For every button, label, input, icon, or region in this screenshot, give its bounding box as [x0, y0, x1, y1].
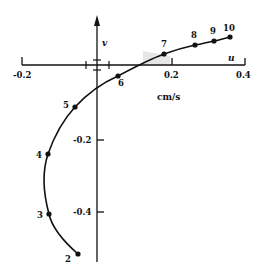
point-label: 7 — [161, 39, 167, 49]
v-axis — [93, 15, 104, 262]
point-10 — [227, 34, 232, 39]
point-label: 3 — [37, 210, 43, 220]
point-label: 2 — [65, 254, 71, 264]
arrow-up-icon — [94, 15, 100, 26]
point-8 — [192, 42, 197, 47]
hodograph-figure: -0.2 0.2 0.4 -0.2 -0.4 v u cm/s 2 3 4 5 — [0, 0, 270, 277]
point-label: 10 — [223, 23, 235, 33]
point-label: 4 — [36, 150, 42, 160]
point-4 — [45, 151, 50, 156]
hodograph-curve — [44, 37, 230, 254]
x-tick-label: 0.2 — [164, 70, 179, 80]
point-3 — [46, 211, 51, 216]
point-label: 9 — [210, 26, 216, 36]
point-2 — [75, 251, 80, 256]
point-label: 5 — [63, 100, 69, 110]
point-5 — [72, 104, 77, 109]
point-label: 6 — [118, 78, 124, 88]
y-tick-label: -0.4 — [73, 207, 91, 217]
u-axis-label: u — [228, 53, 235, 63]
unit-label: cm/s — [157, 92, 180, 102]
x-tick-label: -0.2 — [13, 70, 31, 80]
v-axis-label: v — [102, 38, 108, 48]
point-7 — [161, 51, 166, 56]
y-tick-label: -0.2 — [73, 135, 91, 145]
data-points — [45, 34, 232, 256]
x-tick-label: 0.4 — [236, 70, 251, 80]
point-label: 8 — [191, 30, 197, 40]
point-9 — [211, 38, 216, 43]
